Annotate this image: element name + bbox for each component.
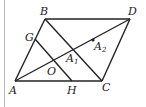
label-A2-main: A [93,40,102,53]
label-A1-sub: 1 [74,58,78,66]
label-H: H [66,84,77,97]
label-A: A [8,84,17,97]
label-G: G [25,31,34,44]
label-A1-main: A [65,52,74,65]
label-B: B [39,5,48,18]
segment-AD [15,19,130,81]
segment-AB [15,19,45,81]
geometry-diagram: B D G O A1 A2 A H C [0,0,146,107]
label-A2: A2 [93,40,107,54]
label-O: O [47,65,56,78]
label-A2-sub: 2 [101,46,107,54]
label-D: D [127,5,137,18]
label-C: C [102,81,111,94]
